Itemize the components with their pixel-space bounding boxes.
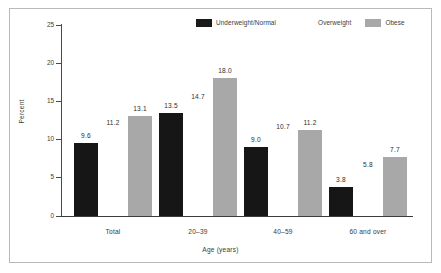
bar-value-overweight-4: 5.8 xyxy=(351,162,385,169)
bar-obese-4 xyxy=(383,157,407,216)
x-axis-category-label-4: 60 and over xyxy=(313,228,423,235)
bar-obese-1 xyxy=(128,116,152,216)
bar-value-overweight-1: 11.2 xyxy=(96,120,130,127)
bar-underweight-normal-3 xyxy=(244,147,268,216)
y-axis-tick-5 xyxy=(56,177,61,178)
legend-item-underweight-normal: Underweight/Normal xyxy=(196,19,276,27)
bar-overweight-2 xyxy=(186,104,210,216)
bar-value-obese-1: 13.1 xyxy=(123,106,157,113)
y-axis-tick-20 xyxy=(56,63,61,64)
bar-obese-3 xyxy=(298,130,322,216)
bar-obese-2 xyxy=(213,78,237,216)
y-axis-tick-labels: 2520151050 xyxy=(28,0,54,273)
bar-value-obese-2: 18.0 xyxy=(208,68,242,75)
legend-item-obese: Obese xyxy=(365,19,404,27)
bar-value-overweight-2: 14.7 xyxy=(181,94,215,101)
y-axis-tick-label-5: 5 xyxy=(32,174,54,180)
bar-underweight-normal-1 xyxy=(74,143,98,216)
bar-value-underweight-normal-3: 9.0 xyxy=(239,137,273,144)
y-axis-line xyxy=(61,24,62,217)
y-axis-tick-label-20: 20 xyxy=(32,60,54,66)
y-axis-tick-25 xyxy=(56,25,61,26)
y-axis-tick-10 xyxy=(56,139,61,140)
y-axis-tick-label-10: 10 xyxy=(32,136,54,142)
bar-value-obese-3: 11.2 xyxy=(293,120,327,127)
bar-value-underweight-normal-4: 3.8 xyxy=(324,177,358,184)
bar-value-obese-4: 7.7 xyxy=(378,147,412,154)
y-axis-tick-label-25: 25 xyxy=(32,22,54,28)
chart-figure: Underweight/Normal Overweight Obese 2520… xyxy=(0,0,441,273)
x-axis-line xyxy=(61,216,413,217)
y-axis-title: Percent xyxy=(18,82,25,142)
y-axis-tick-15 xyxy=(56,101,61,102)
legend-label-underweight-normal: Underweight/Normal xyxy=(216,20,276,26)
bar-value-underweight-normal-1: 9.6 xyxy=(69,133,103,140)
legend-item-overweight: Overweight xyxy=(298,19,351,27)
legend-label-obese: Obese xyxy=(385,20,404,26)
chart-legend: Underweight/Normal Overweight Obese xyxy=(196,17,405,29)
bar-overweight-3 xyxy=(271,134,295,216)
y-axis-tick-label-0: 0 xyxy=(32,213,54,219)
legend-label-overweight: Overweight xyxy=(318,20,351,26)
bar-value-underweight-normal-2: 13.5 xyxy=(154,103,188,110)
bar-overweight-1 xyxy=(101,130,125,216)
y-axis-tick-0 xyxy=(56,216,61,217)
x-axis-title: Age (years) xyxy=(0,246,441,253)
bar-underweight-normal-2 xyxy=(159,113,183,216)
legend-swatch-overweight xyxy=(298,19,314,27)
legend-swatch-obese xyxy=(365,19,381,27)
bar-underweight-normal-4 xyxy=(329,187,353,216)
legend-swatch-underweight-normal xyxy=(196,19,212,27)
y-axis-tick-label-15: 15 xyxy=(32,98,54,104)
bar-overweight-4 xyxy=(356,172,380,216)
